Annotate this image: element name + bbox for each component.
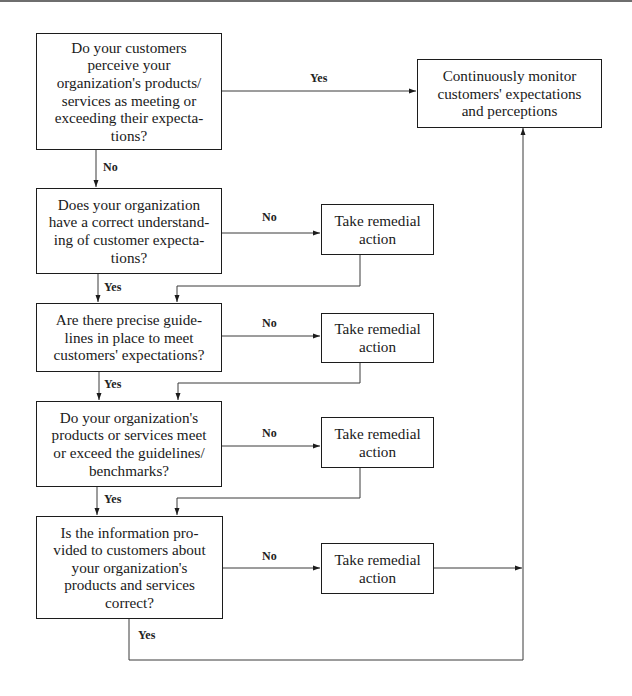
decision-q2: Does your organization have a correct un…: [36, 188, 222, 274]
decision-q4: Do your organization's products or servi…: [36, 401, 222, 487]
remedial-box-2: Take remedial action: [321, 313, 434, 363]
remedial-box-3: Take remedial action: [321, 417, 434, 468]
label-q1-yes: Yes: [310, 71, 327, 86]
remedial-box-1: Take remedial action: [321, 204, 434, 255]
label-q2-yes: Yes: [104, 280, 121, 295]
label-q3-yes: Yes: [104, 377, 121, 392]
label-q1-no: No: [103, 160, 118, 175]
decision-q3: Are there precise guide- lines in place …: [36, 303, 222, 372]
remedial-box-4: Take remedial action: [321, 543, 434, 594]
label-q4-yes: Yes: [104, 492, 121, 507]
label-q4-no: No: [262, 426, 277, 441]
decision-q5: Is the information pro- vided to custome…: [36, 516, 223, 619]
label-q5-no: No: [262, 549, 277, 564]
label-q2-no: No: [262, 210, 277, 225]
monitor-box: Continuously monitor customers' expectat…: [417, 59, 602, 128]
label-q3-no: No: [262, 316, 277, 331]
label-q5-yes: Yes: [138, 628, 155, 643]
decision-q1: Do your customers perceive your organiza…: [36, 33, 222, 150]
